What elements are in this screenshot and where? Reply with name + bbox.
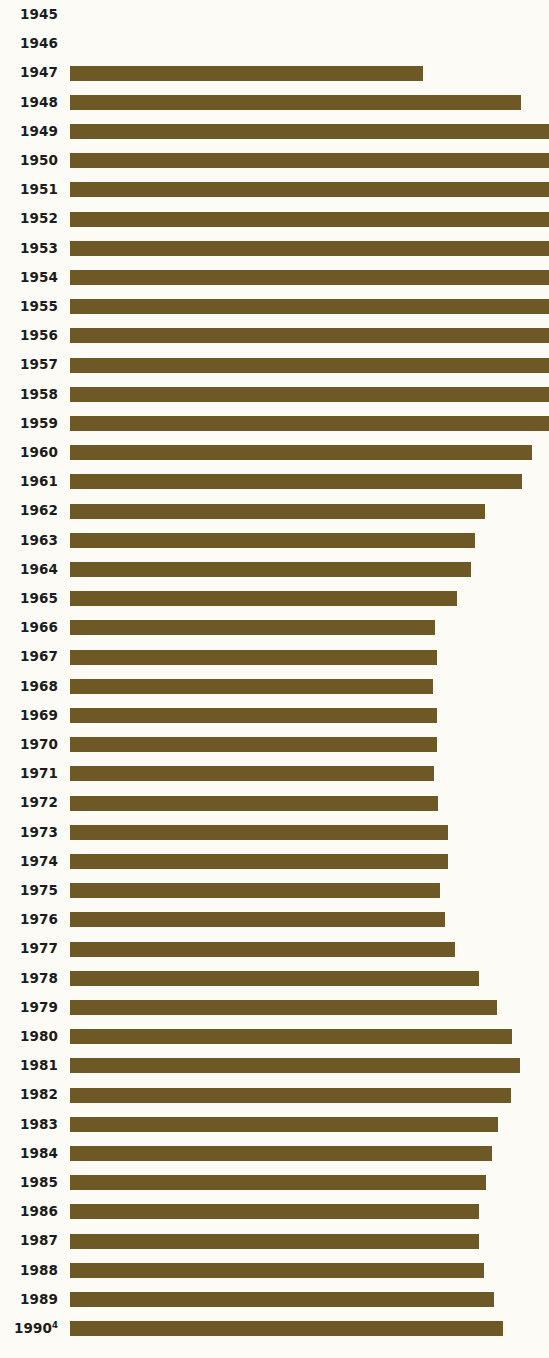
chart-row: 1976 xyxy=(0,905,545,934)
bar-1960 xyxy=(70,445,532,460)
bar-1975 xyxy=(70,883,440,898)
chart-row: 1978 xyxy=(0,964,545,993)
year-label-1953: 1953 xyxy=(0,234,58,263)
bar-1962 xyxy=(70,504,485,519)
bar-1968 xyxy=(70,679,433,694)
year-label-1969: 1969 xyxy=(0,701,58,730)
year-label-1960: 1960 xyxy=(0,438,58,467)
chart-row: 1955 xyxy=(0,292,545,321)
year-label-1967: 1967 xyxy=(0,642,58,671)
bar-1969 xyxy=(70,708,437,723)
chart-row: 1965 xyxy=(0,584,545,613)
bar-1963 xyxy=(70,533,475,548)
year-label-1945: 1945 xyxy=(0,0,58,29)
chart-row: 1950 xyxy=(0,146,545,175)
bar-1954 xyxy=(70,270,549,285)
bar-1973 xyxy=(70,825,448,840)
year-label-1955: 1955 xyxy=(0,292,58,321)
year-label-1975: 1975 xyxy=(0,876,58,905)
bar-1955 xyxy=(70,299,549,314)
year-label-1976: 1976 xyxy=(0,905,58,934)
year-label-1951: 1951 xyxy=(0,175,58,204)
bar-1970 xyxy=(70,737,437,752)
bar-1982 xyxy=(70,1088,511,1103)
bar-1981 xyxy=(70,1058,520,1073)
bar-1986 xyxy=(70,1204,479,1219)
year-label-1973: 1973 xyxy=(0,818,58,847)
bar-1978 xyxy=(70,971,479,986)
chart-row: 1984 xyxy=(0,1139,545,1168)
chart-row: 1962 xyxy=(0,496,545,525)
bar-1948 xyxy=(70,95,521,110)
bar-1977 xyxy=(70,942,455,957)
chart-row: 1975 xyxy=(0,876,545,905)
chart-row: 1988 xyxy=(0,1256,545,1285)
year-label-1990: 19904 xyxy=(0,1314,58,1343)
footnote-marker: 4 xyxy=(52,1320,58,1330)
bar-1961 xyxy=(70,474,522,489)
chart-row: 1958 xyxy=(0,380,545,409)
bar-1950 xyxy=(70,153,549,168)
chart-row: 1957 xyxy=(0,350,545,379)
chart-row: 1969 xyxy=(0,701,545,730)
bar-1953 xyxy=(70,241,549,256)
chart-row: 1959 xyxy=(0,409,545,438)
chart-row: 1956 xyxy=(0,321,545,350)
bar-1989 xyxy=(70,1292,494,1307)
year-label-1949: 1949 xyxy=(0,117,58,146)
chart-row: 1968 xyxy=(0,672,545,701)
bar-1988 xyxy=(70,1263,484,1278)
chart-row: 1982 xyxy=(0,1080,545,1109)
year-label-1946: 1946 xyxy=(0,29,58,58)
chart-row: 1973 xyxy=(0,818,545,847)
chart-row: 1961 xyxy=(0,467,545,496)
year-label-1978: 1978 xyxy=(0,964,58,993)
chart-row: 1966 xyxy=(0,613,545,642)
chart-row: 1953 xyxy=(0,234,545,263)
year-label-1983: 1983 xyxy=(0,1110,58,1139)
bar-1965 xyxy=(70,591,457,606)
chart-row: 1972 xyxy=(0,788,545,817)
year-label-1970: 1970 xyxy=(0,730,58,759)
year-label-1958: 1958 xyxy=(0,380,58,409)
chart-row: 1949 xyxy=(0,117,545,146)
bar-1990 xyxy=(70,1321,503,1336)
year-label-1982: 1982 xyxy=(0,1080,58,1109)
bar-1947 xyxy=(70,66,423,81)
year-label-1966: 1966 xyxy=(0,613,58,642)
bar-1966 xyxy=(70,620,435,635)
chart-row: 1979 xyxy=(0,993,545,1022)
year-label-1959: 1959 xyxy=(0,409,58,438)
chart-row: 1977 xyxy=(0,934,545,963)
year-label-1957: 1957 xyxy=(0,350,58,379)
bar-1956 xyxy=(70,328,549,343)
chart-row: 1987 xyxy=(0,1226,545,1255)
year-label-1974: 1974 xyxy=(0,847,58,876)
chart-row: 1964 xyxy=(0,555,545,584)
year-label-1961: 1961 xyxy=(0,467,58,496)
chart-row: 1986 xyxy=(0,1197,545,1226)
year-label-1985: 1985 xyxy=(0,1168,58,1197)
bar-1980 xyxy=(70,1029,512,1044)
year-label-1984: 1984 xyxy=(0,1139,58,1168)
year-label-1971: 1971 xyxy=(0,759,58,788)
bar-1959 xyxy=(70,416,549,431)
year-label-1988: 1988 xyxy=(0,1256,58,1285)
year-label-1979: 1979 xyxy=(0,993,58,1022)
chart-row: 1983 xyxy=(0,1110,545,1139)
year-label-1964: 1964 xyxy=(0,555,58,584)
year-label-1947: 1947 xyxy=(0,58,58,87)
year-label-1968: 1968 xyxy=(0,672,58,701)
bar-1984 xyxy=(70,1146,492,1161)
year-label-1948: 1948 xyxy=(0,88,58,117)
year-label-1965: 1965 xyxy=(0,584,58,613)
year-label-1981: 1981 xyxy=(0,1051,58,1080)
chart-row: 1981 xyxy=(0,1051,545,1080)
bar-1987 xyxy=(70,1234,479,1249)
chart-row: 1948 xyxy=(0,88,545,117)
year-label-1963: 1963 xyxy=(0,526,58,555)
chart-row: 1947 xyxy=(0,58,545,87)
year-label-1952: 1952 xyxy=(0,204,58,233)
year-label-1956: 1956 xyxy=(0,321,58,350)
